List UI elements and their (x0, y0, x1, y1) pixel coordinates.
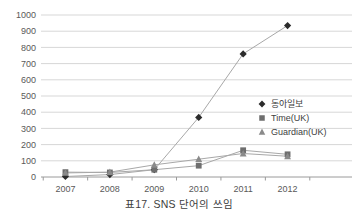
line-chart: 01002003004005006007008009001000 2007200… (0, 0, 358, 196)
y-tick-label: 1000 (16, 10, 36, 20)
y-axis-tick-labels: 01002003004005006007008009001000 (16, 10, 36, 182)
data-point-marker (240, 50, 247, 57)
legend-marker (259, 115, 265, 121)
x-tick-label: 2008 (100, 184, 120, 194)
chart-canvas: 01002003004005006007008009001000 2007200… (0, 0, 358, 196)
y-tick-label: 400 (21, 107, 36, 117)
chart-legend: 동아일보Time(UK)Guardian(UK) (259, 99, 327, 137)
x-tick-label: 2011 (233, 184, 252, 194)
y-tick-label: 600 (21, 75, 36, 85)
data-point-marker (284, 22, 291, 29)
x-tick-label: 2012 (278, 184, 298, 194)
y-tick-label: 200 (21, 140, 36, 150)
x-tick-label: 2007 (55, 184, 75, 194)
x-axis-ticks (43, 177, 310, 181)
x-tick-label: 2009 (144, 184, 164, 194)
legend-label: Time(UK) (271, 113, 309, 123)
legend-marker (259, 129, 265, 135)
y-tick-label: 900 (21, 26, 36, 36)
figure-sns-word-usage: 01002003004005006007008009001000 2007200… (0, 0, 358, 223)
x-axis-tick-labels: 200720082009201020112012 (55, 184, 297, 194)
series-line (65, 150, 287, 172)
figure-caption: 표17. SNS 단어의 쓰임 (0, 196, 358, 211)
y-tick-label: 500 (21, 91, 36, 101)
y-tick-label: 800 (21, 43, 36, 53)
series-lines (65, 26, 287, 177)
legend-marker (259, 101, 266, 108)
x-tick-label: 2010 (189, 184, 209, 194)
y-tick-label: 700 (21, 59, 36, 69)
y-tick-label: 100 (21, 156, 36, 166)
legend-label: Guardian(UK) (271, 127, 327, 137)
legend-label: 동아일보 (271, 99, 303, 109)
y-tick-label: 300 (21, 124, 36, 134)
y-tick-label: 0 (31, 172, 36, 182)
data-point-marker (196, 163, 202, 169)
series-line (65, 154, 287, 173)
gridlines (41, 15, 352, 161)
